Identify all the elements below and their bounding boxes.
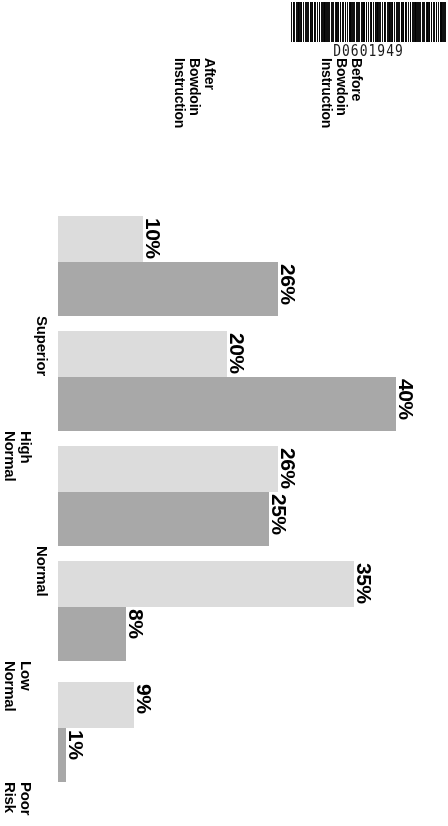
category-label: High Normal <box>2 431 34 541</box>
category-label: Superior <box>34 316 50 426</box>
bar-value-label: 20% <box>227 333 248 374</box>
bar-value-label: 10% <box>143 218 164 259</box>
bar-value-label: 26% <box>278 448 299 489</box>
bar-value-label: 25% <box>269 494 290 535</box>
legend-label-after: After Bowdoin Instruction <box>172 58 217 128</box>
bar-after <box>58 607 126 661</box>
bar-after <box>58 492 269 546</box>
category-label: Normal <box>34 546 50 656</box>
barcode-number: D0601949 <box>291 42 446 59</box>
legend-swatch-before <box>386 62 433 106</box>
category-label: Poor Risk <box>2 782 34 826</box>
bar-value-label: 1% <box>66 730 87 759</box>
bar-after <box>58 377 396 431</box>
scanned-page: D0601949 Before Bowdoin Instruction Afte… <box>0 0 448 826</box>
bar-before <box>58 561 354 607</box>
bar-value-label: 9% <box>134 684 155 713</box>
bar-before <box>58 446 278 492</box>
barcode-icon <box>291 2 446 42</box>
bar-after <box>58 262 278 316</box>
legend-swatch-after <box>240 62 295 111</box>
bar-value-label: 40% <box>396 379 417 420</box>
legend-label-before: Before Bowdoin Instruction <box>319 58 364 128</box>
bar-chart-plot: 10%26%Superior20%40%High Normal26%25%Nor… <box>0 200 448 826</box>
bar-value-label: 8% <box>126 609 147 638</box>
barcode-block: D0601949 <box>291 2 446 58</box>
category-label: Low Normal <box>2 661 34 771</box>
bar-before <box>58 331 227 377</box>
bar-before <box>58 682 134 728</box>
bar-value-label: 26% <box>278 264 299 305</box>
bar-before <box>58 216 143 262</box>
bar-value-label: 35% <box>354 563 375 604</box>
